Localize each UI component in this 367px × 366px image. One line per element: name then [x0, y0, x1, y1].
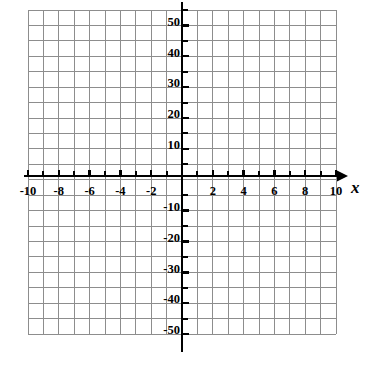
y-tick-label-20: 20 — [168, 108, 181, 121]
x-tick-label-10: 10 — [330, 185, 343, 198]
y-tick-label-40: 40 — [168, 46, 181, 59]
x-tick-label-neg10: -10 — [20, 185, 37, 198]
x-tick-label-6: 6 — [271, 185, 277, 198]
x-tick-label-8: 8 — [302, 185, 308, 198]
x-tick-label-neg8: -8 — [54, 185, 64, 198]
x-tick-label-neg2: -2 — [146, 185, 156, 198]
coordinate-plane-svg — [0, 0, 367, 366]
x-tick-label-neg4: -4 — [115, 185, 125, 198]
y-tick-label-neg50: -50 — [163, 324, 180, 337]
x-tick-label-2: 2 — [210, 185, 216, 198]
x-axis-name-label: x — [351, 179, 360, 196]
y-tick-label-30: 30 — [168, 77, 181, 90]
x-tick-label-neg6: -6 — [84, 185, 94, 198]
y-tick-label-neg20: -20 — [163, 231, 180, 244]
y-tick-label-neg10: -10 — [163, 201, 180, 214]
x-tick-label-4: 4 — [240, 185, 246, 198]
axis-lines — [24, 2, 348, 352]
y-tick-label-neg30: -30 — [163, 262, 180, 275]
graph-canvas: -10-8-6-4-2246810 5040302010-10-20-30-40… — [0, 0, 367, 366]
y-tick-label-50: 50 — [168, 15, 181, 28]
y-tick-label-neg40: -40 — [163, 293, 180, 306]
y-tick-label-10: 10 — [168, 139, 181, 152]
